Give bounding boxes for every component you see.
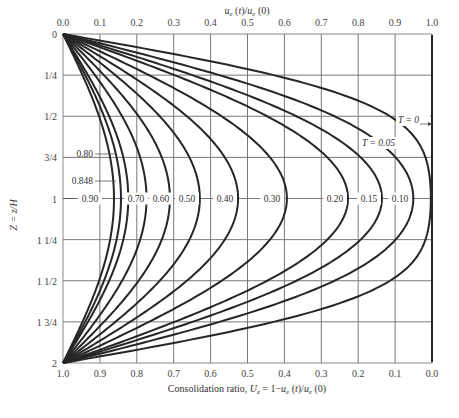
curve-label: 0.60 <box>153 194 170 204</box>
curve-label: 0.30 <box>264 194 281 204</box>
top-tick-label: 1.0 <box>426 17 439 28</box>
curve-label: 0.40 <box>217 194 234 204</box>
y-tick-label: 1/2 <box>44 111 57 122</box>
bottom-tick-label: 0.7 <box>167 368 180 379</box>
y-tick-label: 1 3/4 <box>37 317 57 328</box>
bottom-tick-label: 0.1 <box>389 368 402 379</box>
curve-label: 0.50 <box>179 194 196 204</box>
curve-label: 0.20 <box>327 194 344 204</box>
y-tick-label: 3/4 <box>44 152 57 163</box>
top-tick-label: 0.1 <box>94 17 107 28</box>
curve-label: 0.90 <box>82 194 99 204</box>
bottom-tick-label: 0.8 <box>131 368 144 379</box>
bottom-axis-ticks: 1.00.90.80.70.60.50.40.30.20.10.0 <box>57 368 439 379</box>
top-tick-label: 0.3 <box>167 17 180 28</box>
bottom-axis-title: Consolidation ratio, Uz = 1−ue (t)/ue (0… <box>168 383 326 396</box>
curve-label-0.848: 0.848 <box>72 176 94 186</box>
top-axis-ticks: 0.00.10.20.30.40.50.60.70.80.91.0 <box>57 17 439 28</box>
y-tick-label: 1/4 <box>44 70 57 81</box>
bottom-tick-label: 0.5 <box>241 368 254 379</box>
top-tick-label: 0.9 <box>389 17 402 28</box>
bottom-tick-label: 1.0 <box>57 368 70 379</box>
top-tick-label: 0.2 <box>131 17 144 28</box>
top-tick-label: 0.8 <box>352 17 365 28</box>
curve-label-t0: T = 0 <box>398 115 419 125</box>
bottom-tick-label: 0.0 <box>426 368 439 379</box>
bottom-tick-label: 0.6 <box>204 368 217 379</box>
bottom-tick-label: 0.3 <box>315 368 328 379</box>
bottom-tick-label: 0.4 <box>278 368 291 379</box>
bottom-tick-label: 0.2 <box>352 368 365 379</box>
curve-label: 0.10 <box>392 194 409 204</box>
top-tick-label: 0.0 <box>57 17 70 28</box>
curve-label-t005: T = 0.05 <box>362 138 395 148</box>
curve-label: 0.15 <box>361 194 378 204</box>
curve-label: 0.70 <box>128 194 145 204</box>
top-tick-label: 0.7 <box>315 17 328 28</box>
y-axis-ticks: 01/41/23/411 1/41 1/21 3/42 <box>37 29 57 369</box>
curve-label-0.80: 0.80 <box>76 149 93 159</box>
y-tick-label: 1 1/2 <box>37 276 57 287</box>
y-tick-label: 1 <box>52 194 57 205</box>
y-tick-label: 0 <box>52 29 57 40</box>
bottom-tick-label: 0.9 <box>94 368 107 379</box>
y-tick-label: 2 <box>52 358 57 369</box>
top-tick-label: 0.6 <box>278 17 291 28</box>
top-tick-label: 0.5 <box>241 17 254 28</box>
y-tick-label: 1 1/4 <box>37 235 57 246</box>
top-tick-label: 0.4 <box>204 17 217 28</box>
consolidation-isochrone-chart: ue (t)/ue (0) 0.00.10.20.30.40.50.60.70.… <box>0 0 459 418</box>
y-axis-title: Z = z/H <box>8 199 19 231</box>
